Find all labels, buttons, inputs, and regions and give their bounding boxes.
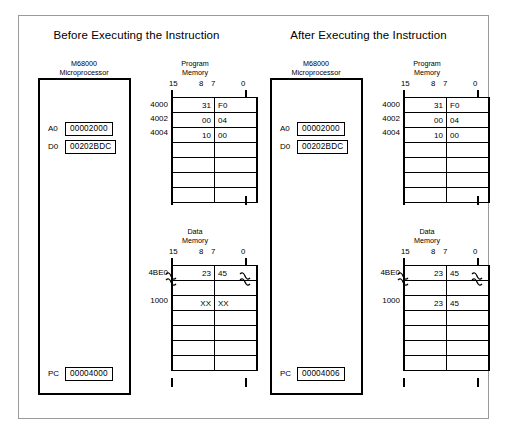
register-pc: PC 00004006 (280, 367, 345, 381)
register-d0-label: D0 (280, 142, 297, 151)
memory-cell-low: 04 (447, 113, 490, 128)
memory-cell-high: 10 (404, 128, 447, 143)
register-a0-label: A0 (48, 124, 65, 133)
memory-address-label: 4000 (138, 98, 168, 112)
program-memory-block: Program Memory 15 8 7 0 4000 4002 4004 3… (371, 60, 483, 220)
memory-cell-high (172, 188, 215, 203)
memory-cell-high: 23 (404, 296, 447, 311)
data-memory-caption: Data Memory (139, 228, 251, 245)
register-d0-value: 00202BDC (65, 140, 116, 154)
bit-label-8: 8 (431, 79, 435, 88)
memory-cell-high (172, 311, 215, 326)
panel-title: Before Executing the Instruction (19, 29, 254, 41)
memory-cell-high: XX (172, 296, 215, 311)
table-row: 10 00 (172, 128, 257, 143)
memory-cell-high (404, 158, 447, 173)
memory-cell-low (447, 188, 490, 203)
memory-cell-high: 23 (404, 266, 447, 281)
cpu-box: A0 00002000 D0 00202BDC PC 00004000 (38, 78, 131, 395)
table-row (404, 326, 489, 341)
memory-cell-high (172, 143, 215, 158)
bit-label-15: 15 (169, 247, 178, 256)
register-d0: D0 00202BDC (280, 140, 348, 154)
bit-label-0: 0 (241, 79, 245, 88)
memory-cell-low (447, 143, 490, 158)
register-pc-label: PC (280, 369, 297, 378)
register-d0-label: D0 (48, 142, 65, 151)
memory-cell-high: 00 (404, 113, 447, 128)
bit-label-7: 7 (443, 79, 447, 88)
memory-cell-high (404, 173, 447, 188)
register-a0-label: A0 (280, 124, 297, 133)
memory-cell-high: 00 (172, 113, 215, 128)
memory-address-label: 4004 (370, 126, 400, 140)
table-row (404, 143, 489, 158)
memory-cell-high (404, 311, 447, 326)
bit-label-8: 8 (431, 247, 435, 256)
memory-cell-low (447, 158, 490, 173)
memory-address-label: 1000 (370, 294, 400, 308)
bit-label-7: 7 (211, 79, 215, 88)
cpu-caption-line2: Microprocessor (261, 69, 371, 78)
data-memory-table: 23 45 XX XX (171, 265, 258, 371)
memory-cell-low: 00 (447, 128, 490, 143)
table-row (404, 341, 489, 356)
register-pc: PC 00004000 (48, 367, 113, 381)
bit-label-0: 0 (241, 247, 245, 256)
panel-before-execution: Before Executing the Instruction M68000 … (19, 16, 254, 420)
program-memory-table: 31 F0 00 04 10 00 (403, 97, 490, 203)
program-memory-block: Program Memory 15 8 7 0 4000 4002 4004 3… (139, 60, 251, 220)
table-row (172, 341, 257, 356)
figure-frame: Before Executing the Instruction M68000 … (18, 15, 489, 419)
memory-cell-high (404, 341, 447, 356)
memory-cell-high (404, 143, 447, 158)
memory-cell-high: 23 (172, 266, 215, 281)
panel-title: After Executing the Instruction (251, 29, 486, 41)
memory-cell-low: 45 (447, 296, 490, 311)
program-memory-table: 31 F0 00 04 10 00 (171, 97, 258, 203)
memory-cell-high (172, 173, 215, 188)
memory-address-label: 4000 (370, 98, 400, 112)
memory-cell-high (172, 158, 215, 173)
table-row (404, 311, 489, 326)
memory-cell-high: 31 (404, 98, 447, 113)
program-memory-caption-line2: Memory (371, 69, 483, 78)
register-pc-value: 00004006 (297, 367, 345, 381)
bit-label-7: 7 (211, 247, 215, 256)
register-a0-value: 00002000 (297, 122, 345, 136)
memory-cell-low: F0 (447, 98, 490, 113)
table-row: 23 45 (172, 266, 257, 281)
table-row (172, 143, 257, 158)
memory-cell-high (404, 188, 447, 203)
table-row (172, 356, 257, 371)
bit-label-0: 0 (473, 247, 477, 256)
bit-position-header: 15 8 7 0 (403, 247, 479, 258)
register-pc-value: 00004000 (65, 367, 113, 381)
table-row: 10 00 (404, 128, 489, 143)
table-row: 23 45 (404, 296, 489, 311)
memory-cell-low: 45 (447, 266, 490, 281)
bit-label-15: 15 (169, 79, 178, 88)
table-row: XX XX (172, 296, 257, 311)
memory-rail-left-bottom (171, 378, 173, 387)
register-d0: D0 00202BDC (48, 140, 116, 154)
data-memory-caption: Data Memory (371, 228, 483, 245)
data-memory-block: Data Memory 15 8 7 0 4BE0 1000 23 45 (371, 228, 483, 398)
table-row-break (404, 281, 489, 296)
memory-address-label: 4002 (138, 112, 168, 126)
memory-cell-high (172, 341, 215, 356)
program-memory-caption-line2: Memory (139, 69, 251, 78)
memory-cell-high: 10 (172, 128, 215, 143)
table-row-break (172, 281, 257, 296)
table-row (172, 326, 257, 341)
data-memory-block: Data Memory 15 8 7 0 4BE0 1000 23 45 (139, 228, 251, 398)
cpu-caption: M68000 Microprocessor (29, 60, 139, 77)
memory-cell-high (404, 281, 447, 296)
bit-label-0: 0 (473, 79, 477, 88)
cpu-caption: M68000 Microprocessor (261, 60, 371, 77)
memory-rail-left-bottom (403, 378, 405, 387)
table-row: 23 45 (404, 266, 489, 281)
program-memory-caption: Program Memory (139, 60, 251, 77)
bit-position-header: 15 8 7 0 (403, 79, 479, 90)
memory-cell-low (447, 311, 490, 326)
